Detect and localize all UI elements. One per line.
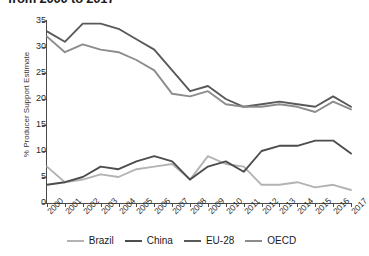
legend-swatch-eu-28 bbox=[184, 240, 201, 243]
legend-swatch-china bbox=[125, 240, 142, 243]
y-tick-5: 5 bbox=[0, 177, 46, 178]
y-tick-label: 15 bbox=[6, 120, 46, 129]
y-tick-label: 25 bbox=[6, 68, 46, 77]
y-tick-35: 35 bbox=[0, 21, 46, 22]
legend-item-brazil[interactable]: Brazil bbox=[67, 236, 114, 246]
legend-item-oecd[interactable]: OECD bbox=[245, 236, 296, 246]
y-tick-label: 30 bbox=[6, 42, 46, 51]
chart-title: from 2000 to 2017 bbox=[8, 0, 114, 6]
y-axis-title: % Producer Support Estimate bbox=[22, 30, 31, 180]
legend-label-eu-28: EU-28 bbox=[206, 236, 234, 246]
legend-label-oecd: OECD bbox=[267, 236, 296, 246]
legend-label-brazil: Brazil bbox=[89, 236, 114, 246]
y-tick-label: 35 bbox=[6, 16, 46, 25]
plot-area bbox=[47, 21, 351, 203]
legend-item-china[interactable]: China bbox=[125, 236, 173, 246]
y-tick-label: 5 bbox=[6, 172, 46, 181]
series-line-oecd bbox=[47, 37, 351, 112]
y-tick-20: 20 bbox=[0, 99, 46, 100]
y-tick-label: 10 bbox=[6, 146, 46, 155]
y-tick-0: 0 bbox=[0, 203, 46, 204]
y-tick-label: 20 bbox=[6, 94, 46, 103]
y-tick-15: 15 bbox=[0, 125, 46, 126]
legend-swatch-brazil bbox=[67, 240, 84, 243]
x-tick-label-2017: 2017 bbox=[349, 196, 369, 216]
series-line-china bbox=[47, 141, 351, 185]
legend-label-china: China bbox=[147, 236, 173, 246]
y-tick-10: 10 bbox=[0, 151, 46, 152]
y-tick-label: 0 bbox=[6, 198, 46, 207]
legend-swatch-oecd bbox=[245, 240, 262, 243]
y-tick-25: 25 bbox=[0, 73, 46, 74]
chart-legend: BrazilChinaEU-28OECD bbox=[0, 236, 363, 246]
y-tick-30: 30 bbox=[0, 47, 46, 48]
legend-item-eu-28[interactable]: EU-28 bbox=[184, 236, 234, 246]
series-lines bbox=[47, 21, 351, 203]
